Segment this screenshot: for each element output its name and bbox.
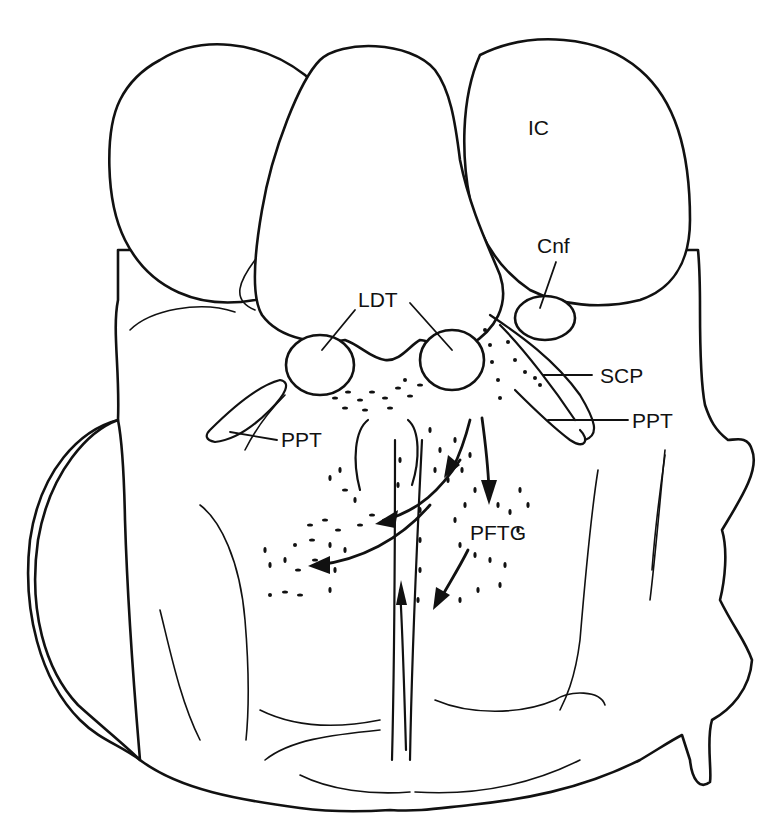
- label-ic: IC: [528, 116, 549, 139]
- label-pftg: PFTG: [470, 521, 526, 544]
- label-scp: SCP: [600, 364, 643, 387]
- label-ppt-right: PPT: [632, 409, 673, 432]
- label-ppt-left: PPT: [281, 428, 322, 451]
- brainstem-diagram: IC Cnf LDT SCP PPT PPT PFTG: [0, 0, 783, 826]
- label-ldt: LDT: [358, 288, 398, 311]
- ldt-nucleus-right: [420, 330, 484, 390]
- label-cnf: Cnf: [537, 234, 570, 257]
- ldt-nucleus-left: [286, 335, 354, 395]
- left-lateral-lobe: [35, 420, 140, 760]
- cnf-nucleus: [515, 296, 575, 340]
